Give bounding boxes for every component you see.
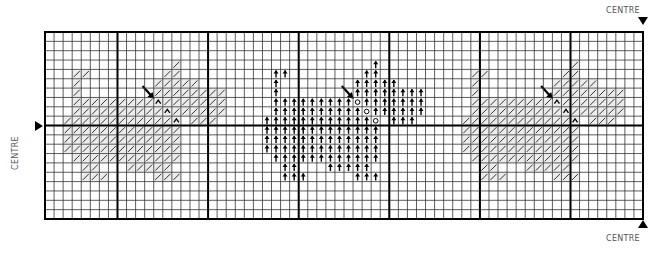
- arrow-up-symbol-icon: [391, 79, 396, 87]
- arrow-up-symbol-icon: [400, 89, 405, 97]
- arrow-up-symbol-icon: [328, 126, 333, 134]
- arrow-up-symbol-icon: [274, 89, 279, 97]
- arrow-up-symbol-icon: [292, 117, 297, 125]
- arrow-up-symbol-icon: [292, 98, 297, 106]
- arrow-up-symbol-icon: [292, 145, 297, 153]
- arrow-up-symbol-icon: [328, 154, 333, 162]
- arrow-up-symbol-icon: [283, 154, 288, 162]
- arrow-up-symbol-icon: [373, 98, 378, 106]
- arrow-up-symbol-icon: [264, 117, 269, 125]
- arrow-up-symbol-icon: [373, 126, 378, 134]
- arrow-up-symbol-icon: [310, 154, 315, 162]
- arrow-up-symbol-icon: [310, 107, 315, 115]
- arrow-up-symbol-icon: [337, 107, 342, 115]
- arrow-up-symbol-icon: [382, 98, 387, 106]
- arrow-up-symbol-icon: [409, 117, 414, 125]
- centre-label-left: CENTRE: [11, 136, 20, 170]
- arrow-up-symbol-icon: [301, 117, 306, 125]
- arrow-up-symbol-icon: [355, 154, 360, 162]
- arrow-up-symbol-icon: [391, 117, 396, 125]
- arrow-up-symbol-icon: [283, 173, 288, 181]
- arrow-up-symbol-icon: [364, 136, 369, 144]
- arrow-up-symbol-icon: [292, 136, 297, 144]
- arrow-up-symbol-icon: [337, 117, 342, 125]
- circle-symbol-icon: [355, 100, 360, 105]
- arrow-up-symbol-icon: [346, 98, 351, 106]
- arrow-up-symbol-icon: [346, 154, 351, 162]
- arrow-up-symbol-icon: [283, 136, 288, 144]
- centre-marker-bottom-icon: [638, 220, 648, 228]
- arrow-up-symbol-icon: [337, 136, 342, 144]
- arrow-up-symbol-icon: [328, 136, 333, 144]
- arrow-up-symbol-icon: [310, 126, 315, 134]
- arrow-up-symbol-icon: [310, 98, 315, 106]
- circle-symbol-icon: [364, 109, 369, 114]
- arrow-up-symbol-icon: [274, 79, 279, 87]
- arrow-up-symbol-icon: [364, 164, 369, 172]
- arrow-up-symbol-icon: [328, 98, 333, 106]
- arrow-up-symbol-icon: [292, 107, 297, 115]
- arrow-up-symbol-icon: [355, 173, 360, 181]
- arrow-up-symbol-icon: [283, 145, 288, 153]
- circle-symbol-icon: [373, 119, 378, 124]
- arrow-up-symbol-icon: [283, 70, 288, 78]
- arrow-up-symbol-icon: [328, 164, 333, 172]
- arrow-up-symbol-icon: [364, 98, 369, 106]
- arrow-up-symbol-icon: [283, 164, 288, 172]
- arrow-up-symbol-icon: [409, 89, 414, 97]
- arrow-up-symbol-icon: [373, 107, 378, 115]
- arrow-up-symbol-icon: [373, 145, 378, 153]
- arrow-up-symbol-icon: [301, 98, 306, 106]
- arrow-up-symbol-icon: [328, 107, 333, 115]
- arrow-up-symbol-icon: [355, 107, 360, 115]
- arrow-up-symbol-icon: [355, 89, 360, 97]
- arrow-up-symbol-icon: [337, 164, 342, 172]
- arrow-up-symbol-icon: [373, 79, 378, 87]
- arrow-up-symbol-icon: [373, 173, 378, 181]
- arrow-up-symbol-icon: [310, 136, 315, 144]
- arrow-up-symbol-icon: [337, 98, 342, 106]
- arrow-up-symbol-icon: [364, 154, 369, 162]
- arrow-up-symbol-icon: [355, 136, 360, 144]
- arrow-up-symbol-icon: [274, 98, 279, 106]
- arrow-up-symbol-icon: [310, 117, 315, 125]
- arrow-up-symbol-icon: [364, 173, 369, 181]
- arrow-up-symbol-icon: [319, 136, 324, 144]
- centre-marker-top-icon: [638, 17, 648, 25]
- arrow-up-symbol-icon: [419, 107, 424, 115]
- arrow-up-symbol-icon: [373, 61, 378, 69]
- arrow-up-symbol-icon: [301, 107, 306, 115]
- arrow-up-symbol-icon: [373, 136, 378, 144]
- arrow-up-symbol-icon: [319, 154, 324, 162]
- centre-marker-left-icon: [35, 121, 43, 131]
- arrow-up-symbol-icon: [292, 126, 297, 134]
- arrow-up-symbol-icon: [391, 107, 396, 115]
- arrow-up-symbol-icon: [328, 117, 333, 125]
- stitch-grid: [0, 0, 664, 253]
- arrow-up-symbol-icon: [409, 107, 414, 115]
- arrow-up-symbol-icon: [264, 136, 269, 144]
- arrow-up-symbol-icon: [301, 145, 306, 153]
- arrow-up-symbol-icon: [264, 126, 269, 134]
- arrow-up-symbol-icon: [337, 145, 342, 153]
- arrow-up-symbol-icon: [391, 89, 396, 97]
- arrow-up-symbol-icon: [373, 154, 378, 162]
- arrow-up-symbol-icon: [346, 145, 351, 153]
- arrow-up-symbol-icon: [337, 126, 342, 134]
- arrow-up-symbol-icon: [355, 79, 360, 87]
- arrow-up-symbol-icon: [346, 126, 351, 134]
- arrow-up-symbol-icon: [346, 136, 351, 144]
- arrow-up-symbol-icon: [337, 154, 342, 162]
- arrow-up-symbol-icon: [274, 136, 279, 144]
- grid-lines: [44, 31, 644, 220]
- arrow-up-symbol-icon: [328, 145, 333, 153]
- arrow-up-symbol-icon: [364, 117, 369, 125]
- arrow-up-symbol-icon: [274, 70, 279, 78]
- arrow-up-symbol-icon: [274, 154, 279, 162]
- arrow-up-symbol-icon: [301, 154, 306, 162]
- arrow-up-symbol-icon: [283, 126, 288, 134]
- arrow-up-symbol-icon: [319, 145, 324, 153]
- arrow-up-symbol-icon: [364, 79, 369, 87]
- arrow-up-symbol-icon: [283, 98, 288, 106]
- arrow-up-symbol-icon: [264, 145, 269, 153]
